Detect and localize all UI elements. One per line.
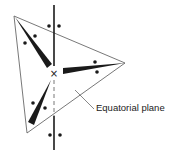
wedge-bond-right [63, 63, 125, 74]
equatorial-plane-triangle [14, 16, 125, 133]
lone-pair-axial-bottom [48, 133, 62, 137]
equatorial-plane-label: Equatorial plane [96, 102, 165, 113]
central-atom-marker: × [50, 68, 58, 79]
molecular-geometry-diagram: × Equatorial plane [0, 0, 181, 162]
label-leader-line [75, 90, 94, 109]
